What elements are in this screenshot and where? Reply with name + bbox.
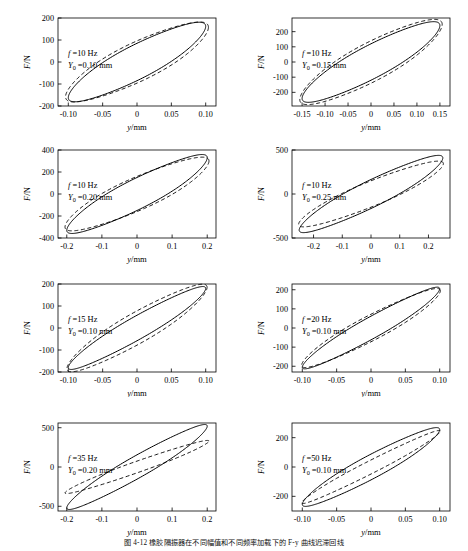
y-tick-label: 200 [42, 14, 54, 23]
x-tick-label: -0.1 [336, 242, 349, 251]
y-tick-label: -100 [273, 73, 288, 82]
x-tick-label: -0.10 [60, 110, 77, 119]
x-axis-title: y/mm [126, 254, 147, 264]
subplot-7: -0.2-0.100.10.2-5000500y/mmF/Nf =35 HzY0… [0, 397, 234, 542]
y-tick-label: 200 [42, 280, 54, 289]
subplot-1: -0.10-0.0500.050.10-200-1000100200y/mmF/… [0, 0, 234, 132]
y-tick-label: 0 [50, 463, 54, 472]
x-tick-label: 0 [369, 242, 373, 251]
x-tick-label: 0.05 [387, 110, 401, 119]
y-axis-title: F/N [22, 320, 32, 336]
plot-canvas: -0.10-0.0500.050.10-200-1000100200y/mmF/… [0, 0, 234, 132]
x-tick-label: 0.10 [433, 376, 447, 385]
x-tick-label: 0.05 [164, 376, 178, 385]
x-tick-label: 0.10 [433, 515, 447, 524]
y-tick-label: 500 [276, 146, 288, 155]
plot-canvas: -0.10-0.0500.050.10-2000200y/mmF/Nf =50 … [234, 397, 468, 542]
plot-canvas: -0.2-0.100.10.2-5000500y/mmF/Nf =10 HzY0… [234, 132, 468, 264]
x-tick-label: 0 [135, 515, 139, 524]
subplot-3: -0.2-0.100.10.2-400-2000200400y/mmF/Nf =… [0, 132, 234, 264]
y-tick-label: -500 [39, 502, 54, 511]
annotation-amplitude: Y0 =0.10 mm [302, 327, 347, 337]
y-tick-label: -200 [39, 102, 54, 111]
subplot-2: -0.15-0.10-0.0500.050.100.15-200-1000100… [234, 0, 468, 132]
y-axis-title: F/N [22, 54, 32, 70]
y-tick-label: 100 [42, 302, 54, 311]
x-tick-label: -0.15 [294, 110, 311, 119]
x-tick-label: 0.2 [423, 242, 433, 251]
annotation-frequency: f =35 Hz [68, 454, 98, 463]
x-tick-label: -0.1 [95, 242, 108, 251]
y-tick-label: 400 [42, 146, 54, 155]
y-tick-label: 0 [50, 190, 54, 199]
annotation-frequency: f =10 Hz [302, 49, 332, 58]
x-tick-label: 0.10 [199, 110, 213, 119]
x-axis-title: y/mm [360, 122, 381, 132]
x-tick-label: 0.15 [433, 110, 447, 119]
plot-canvas: -0.2-0.100.10.2-400-2000200400y/mmF/Nf =… [0, 132, 234, 264]
x-tick-label: -0.1 [95, 515, 108, 524]
y-tick-label: 100 [276, 43, 288, 52]
x-axis-title: y/mm [360, 527, 381, 537]
annotation-frequency: f =20 Hz [302, 315, 332, 324]
x-tick-label: 0.10 [199, 376, 213, 385]
x-tick-label: 0 [369, 376, 373, 385]
annotation-amplitude: Y0 =0.20 mm [68, 466, 113, 476]
y-tick-label: 0 [284, 463, 288, 472]
x-axis-title: y/mm [126, 122, 147, 132]
y-tick-label: -500 [273, 234, 288, 243]
y-tick-label: -200 [39, 368, 54, 377]
x-axis-title: y/mm [360, 254, 381, 264]
y-tick-label: 200 [276, 434, 288, 443]
annotation-amplitude: Y0 =0.10 mm [68, 61, 113, 71]
y-tick-label: 100 [42, 36, 54, 45]
x-tick-label: 0 [135, 110, 139, 119]
x-tick-label: 0.05 [398, 376, 412, 385]
x-axis-title: y/mm [126, 527, 147, 537]
y-tick-label: 500 [42, 424, 54, 433]
x-tick-label: 0.1 [167, 515, 177, 524]
annotation-amplitude: Y0 =0.15 mm [302, 61, 347, 71]
y-tick-label: -100 [273, 343, 288, 352]
x-tick-label: 0.1 [395, 242, 405, 251]
y-tick-label: 200 [276, 286, 288, 295]
y-tick-label: 0 [284, 58, 288, 67]
annotation-frequency: f =50 Hz [302, 454, 332, 463]
subplot-4: -0.2-0.100.10.2-5000500y/mmF/Nf =10 HzY0… [234, 132, 468, 264]
y-tick-label: 0 [284, 324, 288, 333]
annotation-amplitude: Y0 =0.10 mm [302, 466, 347, 476]
annotation-frequency: f =10 Hz [302, 181, 332, 190]
x-tick-label: 0.05 [398, 515, 412, 524]
y-axis-title: F/N [256, 186, 266, 202]
x-tick-label: 0.2 [202, 242, 212, 251]
annotation-frequency: f =15 Hz [68, 315, 98, 324]
y-tick-label: 200 [276, 28, 288, 37]
annotation-amplitude: Y0 =0.20 mm [68, 193, 113, 203]
y-tick-label: -100 [39, 346, 54, 355]
y-axis-title: F/N [256, 320, 266, 336]
y-axis-title: F/N [22, 186, 32, 202]
y-tick-label: -200 [273, 492, 288, 501]
y-tick-label: -400 [39, 234, 54, 243]
y-tick-label: 100 [276, 305, 288, 314]
x-axis-title: y/mm [360, 388, 381, 397]
y-tick-label: -200 [273, 88, 288, 97]
y-tick-label: -200 [273, 362, 288, 371]
x-tick-label: -0.2 [307, 242, 320, 251]
x-tick-label: 0 [369, 110, 373, 119]
x-tick-label: 0 [135, 242, 139, 251]
x-tick-label: -0.10 [294, 515, 311, 524]
figure-container: -0.10-0.0500.050.10-200-1000100200y/mmF/… [0, 0, 468, 551]
x-tick-label: 0 [369, 515, 373, 524]
x-tick-label: -0.2 [60, 242, 73, 251]
y-axis-title: F/N [22, 459, 32, 475]
annotation-amplitude: Y0 =0.10 mm [68, 327, 113, 337]
x-tick-label: -0.10 [317, 110, 334, 119]
y-tick-label: 200 [42, 168, 54, 177]
x-axis-title: y/mm [126, 388, 147, 397]
subplot-6: -0.10-0.0500.050.10-200-1000100200y/mmF/… [234, 264, 468, 397]
annotation-amplitude: Y0 =0.25 mm [302, 193, 347, 203]
subplot-5: -0.10-0.0500.050.10-200-1000100200y/mmF/… [0, 264, 234, 397]
subplot-8: -0.10-0.0500.050.10-2000200y/mmF/Nf =50 … [234, 397, 468, 542]
annotation-frequency: f =10 Hz [68, 49, 98, 58]
